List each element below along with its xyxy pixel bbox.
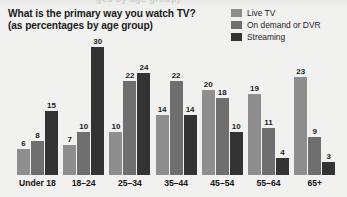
bar-value-label: 30 bbox=[91, 37, 104, 46]
bar-value-label: 24 bbox=[137, 63, 150, 72]
bar-value-label: 23 bbox=[294, 67, 307, 76]
bar-group: 19114 bbox=[248, 40, 289, 175]
page-bleed-text: ges by age group) bbox=[96, 0, 180, 4]
bar-value-label: 20 bbox=[202, 80, 215, 89]
bar-value-label: 14 bbox=[156, 105, 169, 114]
bar[interactable] bbox=[216, 98, 229, 175]
bar-value-label: 10 bbox=[77, 122, 90, 131]
bar[interactable] bbox=[294, 77, 307, 175]
bar-group: 201810 bbox=[202, 40, 243, 175]
bar-value-label: 6 bbox=[17, 139, 30, 148]
bar[interactable] bbox=[170, 81, 183, 175]
x-axis: Under 1818–2425–3435–4445–5455–6465+ bbox=[0, 176, 347, 197]
bar[interactable] bbox=[77, 132, 90, 175]
bar[interactable] bbox=[248, 94, 261, 175]
bar-value-label: 22 bbox=[170, 71, 183, 80]
bar-value-label: 14 bbox=[184, 105, 197, 114]
bar-group: 2393 bbox=[294, 40, 335, 175]
bar-chart-figure: ges by age group) What is the primary wa… bbox=[0, 0, 347, 197]
bar[interactable] bbox=[276, 158, 289, 175]
bar[interactable] bbox=[45, 111, 58, 175]
bar[interactable] bbox=[184, 115, 197, 175]
legend-item[interactable]: Live TV bbox=[231, 8, 343, 19]
plot-area: 681571030102224142214201810191142393 bbox=[0, 40, 347, 175]
bar-value-label: 10 bbox=[109, 122, 122, 131]
bar-group: 6815 bbox=[17, 40, 58, 175]
bar[interactable] bbox=[202, 90, 215, 175]
bar[interactable] bbox=[63, 145, 76, 175]
bar-value-label: 3 bbox=[322, 152, 335, 161]
bar[interactable] bbox=[31, 141, 44, 175]
bar[interactable] bbox=[156, 115, 169, 175]
chart-legend: Live TVOn demand or DVRStreaming bbox=[231, 8, 343, 44]
legend-swatch-icon bbox=[231, 9, 242, 17]
bar-group: 102224 bbox=[109, 40, 150, 175]
bar-value-label: 18 bbox=[216, 88, 229, 97]
bar[interactable] bbox=[137, 73, 150, 175]
page-bleed-artifact: ges by age group) bbox=[0, 0, 347, 7]
bar[interactable] bbox=[230, 132, 243, 175]
bar-value-label: 22 bbox=[123, 71, 136, 80]
bar[interactable] bbox=[123, 81, 136, 175]
bar-value-label: 15 bbox=[45, 101, 58, 110]
chart-title: What is the primary way you watch TV? (a… bbox=[8, 8, 208, 31]
bar-value-label: 10 bbox=[230, 122, 243, 131]
chart-title-line-2: (as percentages by age group) bbox=[8, 20, 208, 32]
bar-group: 71030 bbox=[63, 40, 104, 175]
legend-item[interactable]: On demand or DVR bbox=[231, 20, 343, 31]
bar-value-label: 11 bbox=[262, 118, 275, 127]
legend-item-label: Live TV bbox=[247, 9, 275, 18]
bar[interactable] bbox=[17, 149, 30, 175]
bar[interactable] bbox=[109, 132, 122, 175]
bar-value-label: 7 bbox=[63, 135, 76, 144]
bar-value-label: 19 bbox=[248, 84, 261, 93]
bar[interactable] bbox=[262, 128, 275, 175]
x-axis-tick-label: 65+ bbox=[286, 178, 343, 188]
bar[interactable] bbox=[322, 162, 335, 175]
legend-swatch-icon bbox=[231, 21, 242, 29]
bar-value-label: 9 bbox=[308, 127, 321, 136]
bar[interactable] bbox=[308, 137, 321, 175]
legend-item-label: On demand or DVR bbox=[247, 21, 321, 30]
bar-group: 142214 bbox=[156, 40, 197, 175]
bar-value-label: 8 bbox=[31, 131, 44, 140]
chart-title-line-1: What is the primary way you watch TV? bbox=[8, 8, 208, 20]
bar[interactable] bbox=[91, 47, 104, 175]
bar-value-label: 4 bbox=[276, 148, 289, 157]
